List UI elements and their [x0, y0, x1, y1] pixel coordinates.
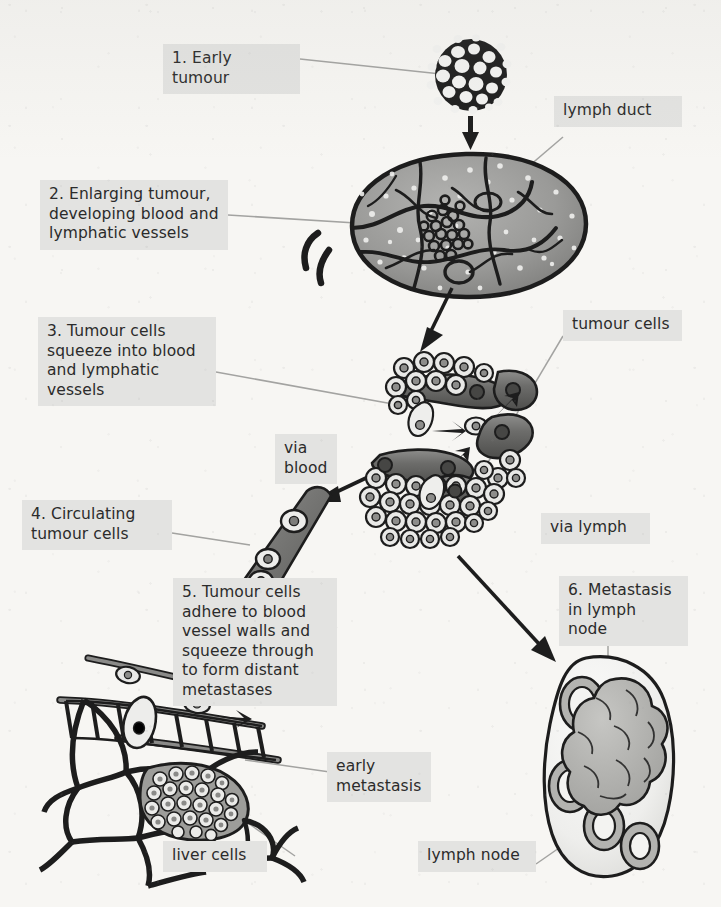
label-tumour-cells: tumour cells — [563, 310, 682, 341]
arrow-step2-to-step3 — [420, 288, 452, 352]
label-step-2: 2. Enlarging tumour, developing blood an… — [40, 180, 228, 250]
label-lymph-duct: lymph duct — [554, 96, 682, 127]
diagram-canvas: 1. Early tumour 2. Enlarging tumour, dev… — [0, 0, 721, 907]
label-lymph-node: lymph node — [418, 841, 536, 872]
label-step-1: 1. Early tumour — [163, 44, 300, 94]
lymph-node-with-follicles — [544, 657, 673, 877]
label-via-lymph: via lymph — [541, 513, 650, 544]
vascularised-tumour-mass — [305, 154, 587, 297]
early-tumour-cluster — [427, 34, 512, 114]
label-step-3: 3. Tumour cells squeeze into blood and l… — [38, 317, 216, 406]
label-step-6: 6. Metastasis in lymph node — [559, 576, 688, 646]
arrow-via-lymph — [458, 556, 556, 662]
early-metastasis-cluster — [140, 763, 248, 840]
label-step-5: 5. Tumour cells adhere to blood vessel w… — [173, 578, 337, 706]
label-liver-cells: liver cells — [163, 841, 267, 872]
arrow-step1-to-step2 — [462, 116, 479, 150]
label-step-4: 4. Circulating tumour cells — [22, 500, 172, 550]
label-via-blood: via blood — [275, 434, 337, 484]
label-early-metastasis: early metastasis — [327, 752, 431, 802]
intravasation-cell-groups — [360, 352, 537, 548]
